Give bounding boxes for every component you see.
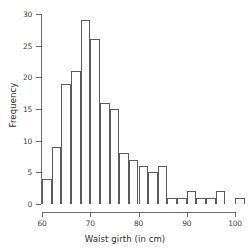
histogram-bar: [148, 172, 158, 204]
x-axis-tick-label: 100: [223, 219, 247, 228]
y-axis-tick-label: 25: [10, 42, 32, 51]
plot-area: [42, 14, 235, 204]
histogram-bar: [100, 103, 110, 204]
histogram-bar: [187, 191, 197, 204]
histogram-bar: [206, 198, 216, 204]
histogram-bar: [119, 153, 129, 204]
histogram-bar: [177, 198, 187, 204]
histogram-bar: [196, 198, 206, 204]
y-axis-tick: [36, 46, 41, 47]
histogram-bar: [158, 166, 168, 204]
y-axis-line: [41, 14, 42, 204]
y-axis-tick: [36, 204, 41, 205]
x-axis-tick: [90, 212, 91, 217]
x-axis-tick: [139, 212, 140, 217]
histogram-bar: [90, 39, 100, 204]
y-axis-tick: [36, 14, 41, 15]
histogram-bar: [216, 191, 226, 204]
histogram-bar: [61, 84, 71, 204]
histogram-figure: 051015202530 60708090100 Waist girth (in…: [0, 0, 250, 252]
x-axis-tick-label: 90: [175, 219, 199, 228]
x-axis-tick: [187, 212, 188, 217]
histogram-bar: [110, 109, 120, 204]
y-axis-tick: [36, 77, 41, 78]
histogram-bar: [71, 71, 81, 204]
y-axis-tick-label: 30: [10, 10, 32, 19]
x-axis-tick-label: 70: [78, 219, 102, 228]
histogram-bar: [139, 166, 149, 204]
x-axis-tick-label: 60: [30, 219, 54, 228]
x-axis-title: Waist girth (in cm): [0, 234, 250, 244]
y-axis-tick: [36, 172, 41, 173]
histogram-bar: [42, 179, 52, 204]
x-axis-tick: [42, 212, 43, 217]
y-axis-tick-label: 5: [10, 168, 32, 177]
histogram-bar: [52, 147, 62, 204]
y-axis-tick: [36, 109, 41, 110]
y-axis-title: Frequency: [8, 60, 18, 150]
histogram-bar: [235, 198, 245, 204]
x-axis-tick: [235, 212, 236, 217]
histogram-bar: [129, 160, 139, 204]
histogram-bar: [81, 20, 91, 204]
y-axis-tick-label: 0: [10, 200, 32, 209]
histogram-bar: [167, 198, 177, 204]
x-axis-tick-label: 80: [127, 219, 151, 228]
y-axis-tick: [36, 141, 41, 142]
